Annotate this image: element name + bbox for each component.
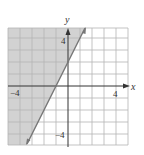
- y-tick-neg4: −4: [55, 130, 65, 140]
- x-tick-neg4: −4: [10, 88, 20, 98]
- x-axis-arrow-icon: [123, 84, 130, 89]
- inequality-graph: y x −4 4 4 −4: [0, 0, 144, 155]
- y-axis-label: y: [64, 14, 70, 25]
- x-axis-label: x: [130, 81, 136, 92]
- x-tick-4: 4: [113, 89, 118, 99]
- y-tick-4: 4: [61, 36, 66, 46]
